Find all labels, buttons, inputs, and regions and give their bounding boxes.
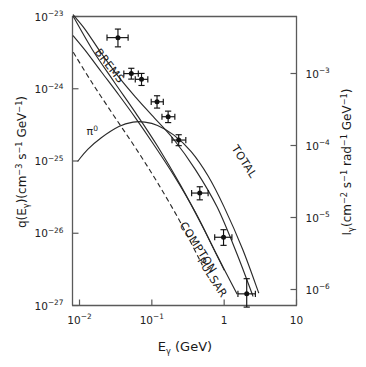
y-right-tick-label: 10−3	[306, 66, 331, 79]
y-right-axis-title: Iγ(cm−2 s−1 rad−1 GeV−1)	[339, 89, 355, 236]
y-left-tick-label: 10−26	[35, 226, 64, 239]
x-tick-marks	[80, 300, 297, 306]
figure-container: BREMSπ0COMPTONPULSARTOTAL 10−2310−2410−2…	[0, 0, 366, 367]
svg-text:Eγ (GeV): Eγ (GeV)	[158, 339, 212, 356]
y-left-axis-title: q(Eγ)(cm−3 s−1 GeV−1)	[14, 96, 30, 228]
x-tick-label: 10−1	[140, 312, 165, 325]
data-point	[192, 187, 208, 200]
data-point	[238, 279, 255, 307]
curve-label-total: TOTAL	[228, 142, 260, 181]
y-right-tick-label: 10−5	[306, 210, 331, 223]
svg-text:Iγ(cm−2 s−1 rad−1 GeV−1): Iγ(cm−2 s−1 rad−1 GeV−1)	[339, 89, 355, 236]
data-point	[215, 230, 232, 246]
x-axis-title: Eγ (GeV)	[158, 339, 212, 356]
y-right-tick-label: 10−4	[306, 138, 331, 151]
svg-text:q(Eγ)(cm−3 s−1 GeV−1): q(Eγ)(cm−3 s−1 GeV−1)	[14, 96, 30, 228]
y-right-tick-label: 10−6	[306, 282, 331, 295]
y-right-tick-marks	[291, 74, 297, 290]
y-left-tick-label: 10−23	[35, 9, 64, 22]
data-point	[135, 73, 148, 85]
curve-label-: π0	[87, 124, 99, 138]
gamma-ray-spectrum-chart: BREMSπ0COMPTONPULSARTOTAL 10−2310−2410−2…	[0, 0, 366, 367]
y-left-tick-label: 10−24	[35, 82, 64, 95]
curve-brems	[73, 36, 237, 294]
y-right-tick-labels: 10−310−410−510−6	[306, 66, 331, 295]
data-point	[151, 96, 163, 108]
x-tick-label: 10−2	[67, 312, 91, 325]
data-point	[162, 111, 175, 122]
data-points-group	[107, 29, 255, 307]
x-tick-label: 1	[221, 314, 228, 326]
y-left-tick-label: 10−25	[35, 154, 64, 167]
y-left-tick-labels: 10−2310−2410−2510−2610−27	[35, 9, 64, 311]
y-left-tick-label: 10−27	[35, 298, 64, 311]
data-point	[107, 29, 128, 47]
x-tick-labels: 10−210−1110	[67, 312, 303, 325]
x-tick-label: 10	[290, 314, 303, 326]
